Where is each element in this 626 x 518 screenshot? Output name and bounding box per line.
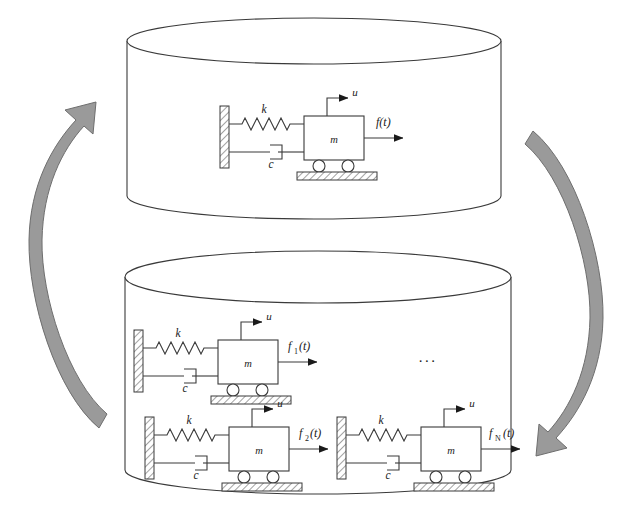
figure-canvas: k c m u f(t) k c m u f 1 (t) ... [0, 0, 626, 518]
spring-label-1: k [175, 327, 181, 339]
svg-text:N: N [495, 434, 501, 443]
displacement-label-1: u [266, 310, 272, 322]
damper-label-1: c [182, 382, 187, 394]
mass-label-top: m [330, 134, 338, 145]
svg-text:1: 1 [294, 347, 298, 356]
spring-label-2: k [186, 414, 192, 426]
displacement-label-top: u [352, 86, 358, 98]
damper-label-top: c [268, 158, 273, 170]
mass-label-N: m [447, 445, 455, 456]
displacement-label-N: u [469, 397, 475, 409]
force-label-top: f(t) [376, 115, 391, 129]
svg-text:2: 2 [305, 434, 309, 443]
downward-curved-arrow [525, 131, 603, 456]
displacement-label-2: u [277, 397, 283, 409]
damper-label-N: c [385, 469, 390, 481]
spring-label-top: k [261, 103, 267, 115]
damper-label-2: c [193, 469, 198, 481]
spring-label-N: k [378, 414, 384, 426]
mass-label-1: m [244, 358, 252, 369]
upward-curved-arrow [29, 102, 107, 428]
systems-ellipsis: ... [419, 349, 438, 365]
svg-text:(t): (t) [310, 426, 321, 440]
svg-text:(t): (t) [503, 426, 514, 440]
svg-text:(t): (t) [299, 339, 310, 353]
mass-label-2: m [255, 445, 263, 456]
